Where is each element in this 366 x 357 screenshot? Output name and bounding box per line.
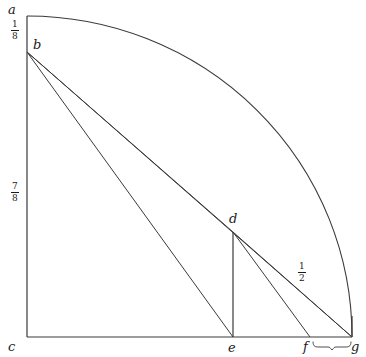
fraction-numerator: 1 [11,20,19,31]
fraction-denominator: 8 [11,31,19,41]
point-label-a: a [8,3,16,16]
point-label-b: b [33,38,41,51]
fraction-one-half: 1 2 [298,262,306,283]
point-label-c: c [8,340,15,353]
point-label-e: e [228,341,236,354]
figure-canvas [0,0,366,357]
fraction-denominator: 2 [298,273,306,283]
segment-chord-dg [233,232,352,337]
segment-chord-df [233,232,310,337]
fraction-denominator: 8 [11,193,19,203]
point-label-g: g [351,340,359,353]
quarter-arc-a-to-g [27,16,352,337]
fraction-numerator: 7 [11,182,19,193]
fraction-one-eighth: 1 8 [11,20,19,41]
fraction-numerator: 1 [298,262,306,273]
segment-chord-be [27,52,233,337]
brace-f-to-g [313,342,351,350]
point-label-f: f [303,340,308,353]
fraction-seven-eighths: 7 8 [11,182,19,203]
geometry-figure: a b c d e f g 1 8 7 8 1 2 [0,0,366,357]
point-label-d: d [229,212,237,225]
